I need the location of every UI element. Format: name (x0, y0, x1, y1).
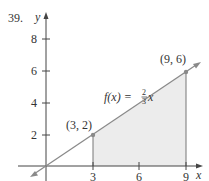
point-label-3-2: (3, 2) (66, 118, 92, 132)
y-tick-label-6: 6 (31, 64, 37, 78)
y-axis-arrow-icon (44, 12, 49, 19)
function-graph: 39. y x 3 6 9 2 4 6 8 (3, 2) (9, 6) f(x)… (0, 0, 209, 181)
point-label-9-6: (9, 6) (160, 52, 186, 66)
x-tick-label-3: 3 (90, 170, 96, 181)
point-9-6 (184, 70, 188, 74)
x-tick-label-9: 9 (183, 170, 189, 181)
problem-number: 39. (8, 11, 23, 25)
shaded-area (93, 72, 186, 166)
function-line-arrow-up-icon (193, 62, 201, 69)
x-tick-label-6: 6 (136, 170, 142, 181)
y-axis-label: y (34, 10, 41, 24)
point-3-2 (91, 133, 95, 137)
y-tick-label-8: 8 (31, 32, 37, 46)
function-variable: x (147, 90, 154, 104)
function-coef-numerator: 2 (142, 88, 146, 97)
function-label-prefix: f(x) = (104, 90, 132, 104)
y-tick-label-4: 4 (31, 96, 37, 110)
function-label: f(x) = (104, 90, 132, 104)
y-tick-label-2: 2 (31, 128, 37, 142)
function-coef-denominator: 3 (142, 97, 146, 106)
x-axis-label: x (195, 168, 202, 181)
